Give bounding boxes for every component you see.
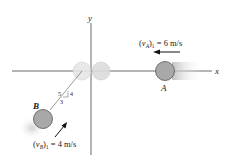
x-axis-label: x	[214, 66, 219, 76]
motion-trail-a	[172, 62, 202, 80]
ball-b	[34, 110, 53, 129]
ball-b-label: B	[32, 101, 39, 111]
ball-a	[156, 62, 175, 81]
velocity-a-label: (vA)1 = 6 m/s	[139, 38, 182, 49]
arrowhead-icon	[153, 50, 160, 55]
trajectory-b	[50, 71, 82, 110]
velocity-b-arrow	[55, 126, 64, 137]
slope-triangle	[63, 91, 68, 97]
slope-run: 3	[60, 99, 63, 105]
y-axis-label: y	[87, 13, 92, 23]
slope-rise: 4	[70, 91, 73, 97]
velocity-b-label: (vB)1 = 4 m/s	[33, 139, 76, 150]
ball-a-label: A	[160, 83, 167, 93]
collision-diagram: x y A (vA)1 = 6 m/s 5 4 3 B (vB)1 = 4 m/…	[0, 0, 233, 163]
slope-hyp: 5	[58, 91, 61, 97]
ghost-ball-right	[92, 62, 110, 80]
